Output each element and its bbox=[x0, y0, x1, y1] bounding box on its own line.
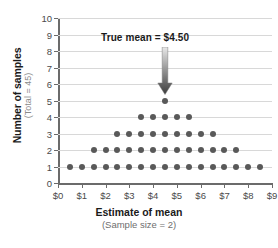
y-axis-title-sub: (Total = 45) bbox=[24, 47, 35, 143]
data-point bbox=[91, 147, 97, 153]
x-tick-label: $7 bbox=[219, 190, 230, 201]
data-point bbox=[186, 114, 192, 120]
down-arrow-icon bbox=[157, 47, 173, 95]
y-tick-label: 1 bbox=[47, 161, 52, 172]
x-tick bbox=[224, 183, 225, 188]
y-tick-label: 4 bbox=[47, 112, 52, 123]
x-axis-title: Estimate of mean (Sample size = 2) bbox=[0, 206, 278, 231]
x-tick-label: $2 bbox=[100, 190, 111, 201]
data-point bbox=[138, 164, 144, 170]
y-axis-title: Number of samples (Total = 45) bbox=[0, 0, 46, 190]
x-tick-label: $0 bbox=[53, 190, 64, 201]
y-tick-label: 2 bbox=[47, 145, 52, 156]
data-point bbox=[174, 114, 180, 120]
data-point bbox=[198, 164, 204, 170]
data-point bbox=[126, 164, 132, 170]
data-point bbox=[150, 131, 156, 137]
y-tick bbox=[54, 51, 58, 52]
x-tick bbox=[248, 183, 249, 188]
x-tick bbox=[82, 183, 83, 188]
y-tick-label: 5 bbox=[47, 95, 52, 106]
x-tick-label: $4 bbox=[148, 190, 159, 201]
y-tick-label: 7 bbox=[47, 62, 52, 73]
x-axis-line bbox=[58, 183, 272, 185]
data-point bbox=[174, 164, 180, 170]
data-point bbox=[138, 114, 144, 120]
data-point bbox=[257, 164, 263, 170]
y-tick bbox=[54, 150, 58, 151]
x-axis-title-sub: (Sample size = 2) bbox=[0, 219, 278, 231]
data-point bbox=[79, 164, 85, 170]
data-point bbox=[103, 164, 109, 170]
x-tick bbox=[272, 183, 273, 188]
data-point bbox=[150, 114, 156, 120]
x-tick bbox=[129, 183, 130, 188]
data-point bbox=[186, 131, 192, 137]
data-point bbox=[138, 131, 144, 137]
data-point bbox=[174, 147, 180, 153]
x-tick-label: $1 bbox=[76, 190, 87, 201]
x-tick bbox=[106, 183, 107, 188]
x-axis-title-main: Estimate of mean bbox=[0, 206, 278, 219]
x-tick-label: $3 bbox=[124, 190, 135, 201]
data-point bbox=[103, 147, 109, 153]
data-point bbox=[162, 98, 168, 104]
data-point bbox=[186, 147, 192, 153]
y-tick bbox=[54, 35, 58, 36]
data-point bbox=[114, 147, 120, 153]
y-tick-label: 10 bbox=[41, 13, 52, 24]
x-tick bbox=[201, 183, 202, 188]
y-axis-title-main: Number of samples bbox=[12, 47, 24, 143]
y-tick bbox=[54, 134, 58, 135]
gridline bbox=[58, 18, 272, 19]
y-tick-label: 3 bbox=[47, 128, 52, 139]
data-point bbox=[162, 131, 168, 137]
data-point bbox=[150, 164, 156, 170]
data-point bbox=[114, 131, 120, 137]
y-tick-label: 6 bbox=[47, 79, 52, 90]
y-tick bbox=[54, 117, 58, 118]
data-point bbox=[221, 164, 227, 170]
x-tick-label: $6 bbox=[195, 190, 206, 201]
data-point bbox=[162, 147, 168, 153]
y-tick bbox=[54, 18, 58, 19]
y-tick bbox=[54, 101, 58, 102]
data-point bbox=[126, 131, 132, 137]
chart-figure: Number of samples (Total = 45) 012345678… bbox=[0, 0, 278, 248]
y-tick bbox=[54, 68, 58, 69]
data-point bbox=[126, 147, 132, 153]
data-point bbox=[91, 164, 97, 170]
y-tick-label: 0 bbox=[47, 178, 52, 189]
data-point bbox=[210, 164, 216, 170]
data-point bbox=[198, 147, 204, 153]
data-point bbox=[174, 131, 180, 137]
y-tick bbox=[54, 167, 58, 168]
data-point bbox=[67, 164, 73, 170]
data-point bbox=[162, 114, 168, 120]
data-point bbox=[245, 164, 251, 170]
true-mean-annotation-label: True mean = $4.50 bbox=[101, 32, 189, 43]
x-tick-label: $8 bbox=[243, 190, 254, 201]
data-point bbox=[233, 147, 239, 153]
data-point bbox=[114, 164, 120, 170]
x-tick bbox=[153, 183, 154, 188]
data-point bbox=[198, 131, 204, 137]
y-tick-label: 9 bbox=[47, 29, 52, 40]
data-point bbox=[150, 147, 156, 153]
y-tick bbox=[54, 84, 58, 85]
y-tick-label: 8 bbox=[47, 46, 52, 57]
data-point bbox=[186, 164, 192, 170]
x-tick-label: $5 bbox=[172, 190, 183, 201]
data-point bbox=[162, 164, 168, 170]
data-point bbox=[210, 147, 216, 153]
data-point bbox=[233, 164, 239, 170]
x-tick bbox=[58, 183, 59, 188]
x-tick-label: $9 bbox=[267, 190, 278, 201]
x-tick bbox=[177, 183, 178, 188]
data-point bbox=[221, 147, 227, 153]
data-point bbox=[210, 131, 216, 137]
data-point bbox=[138, 147, 144, 153]
